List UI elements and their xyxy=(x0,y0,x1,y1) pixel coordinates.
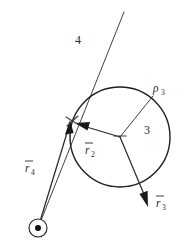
figure-background xyxy=(0,0,185,250)
label-r4-symbol: r xyxy=(25,162,30,174)
label-r3-symbol: r xyxy=(156,197,161,209)
label-r3-subscript: 3 xyxy=(162,203,166,212)
label-r2-symbol: r xyxy=(85,144,90,156)
label-link-4: 4 xyxy=(75,33,81,47)
diagram-canvas: 4 3 ρ 3 r 2 r 3 r 4 xyxy=(0,0,185,250)
label-rho-3-subscript: 3 xyxy=(161,88,165,97)
kinematic-diagram-figure: 4 3 ρ 3 r 2 r 3 r 4 xyxy=(0,0,185,250)
label-r2-subscript: 2 xyxy=(91,150,95,159)
label-r4-subscript: 4 xyxy=(31,168,35,177)
label-rho-3-symbol: ρ xyxy=(152,82,159,95)
ground-pivot-dot xyxy=(35,225,41,231)
label-link-3: 3 xyxy=(144,123,150,137)
